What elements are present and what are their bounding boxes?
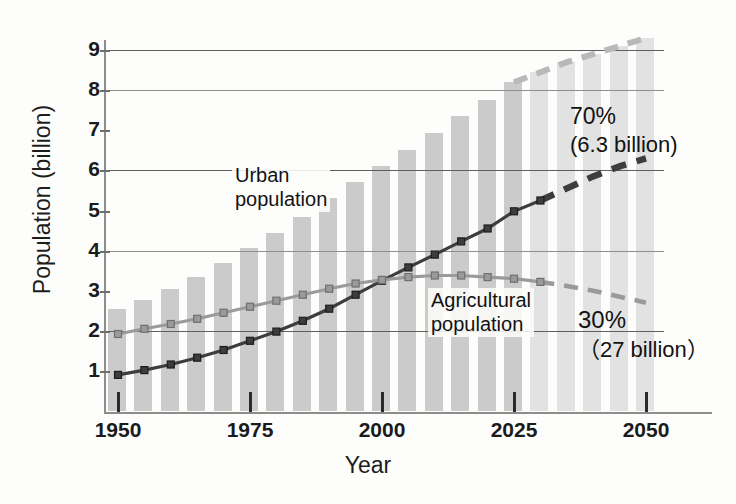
series-marker <box>220 347 227 354</box>
series-marker <box>141 367 148 374</box>
chart-figure: 987654321 19501975200020252050 Urban pop… <box>0 0 736 504</box>
series-marker <box>484 274 491 281</box>
annotation-agri-line2: population <box>431 313 523 335</box>
series-agricultural-population <box>115 272 647 338</box>
series-marker <box>458 272 465 279</box>
annotation-urban-population: Urban population <box>232 163 330 212</box>
series-marker <box>352 291 359 298</box>
annotation-urban-share: 70%(6.3 billion) <box>570 103 678 158</box>
series-marker <box>115 371 122 378</box>
series-marker <box>405 274 412 281</box>
annotation-urban-share-detail: (6.3 billion) <box>570 132 678 158</box>
series-marker <box>273 328 280 335</box>
series-marker <box>431 251 438 258</box>
series-marker <box>141 325 148 332</box>
series-marker <box>194 315 201 322</box>
series-marker <box>379 276 386 283</box>
series-marker <box>458 238 465 245</box>
series-layer <box>0 0 736 504</box>
series-marker <box>431 272 438 279</box>
series-marker <box>484 225 491 232</box>
annotation-agricultural-share: 30%（27 billion） <box>578 306 709 363</box>
series-marker <box>299 317 306 324</box>
series-line-projected <box>540 158 646 200</box>
series-marker <box>511 208 518 215</box>
series-marker <box>326 285 333 292</box>
annotation-agricultural-population: Agricultural population <box>428 288 534 337</box>
series-marker <box>194 354 201 361</box>
annotation-urban-share-pct: 70% <box>570 103 616 129</box>
annotation-agri-share-pct: 30% <box>578 306 626 333</box>
series-marker <box>511 275 518 282</box>
series-marker <box>537 197 544 204</box>
annotation-agri-share-detail: （27 billion） <box>578 337 709 363</box>
series-marker <box>299 291 306 298</box>
series-marker <box>326 305 333 312</box>
annotation-agri-line1: Agricultural <box>431 289 531 311</box>
series-marker <box>167 361 174 368</box>
series-marker <box>537 278 544 285</box>
series-marker <box>247 303 254 310</box>
annotation-urban-line1: Urban <box>235 164 289 186</box>
x-axis-title: Year <box>0 452 736 479</box>
annotation-urban-line2: population <box>235 188 327 210</box>
series-line-projected <box>540 282 646 303</box>
series-marker <box>352 280 359 287</box>
series-marker <box>405 264 412 271</box>
series-marker <box>220 309 227 316</box>
total-population-projected-trend <box>514 38 646 82</box>
series-marker <box>247 337 254 344</box>
y-axis-title: Population (billion) <box>29 0 56 410</box>
series-urban-population <box>115 158 647 378</box>
series-marker <box>273 297 280 304</box>
series-marker <box>167 321 174 328</box>
series-marker <box>115 331 122 338</box>
